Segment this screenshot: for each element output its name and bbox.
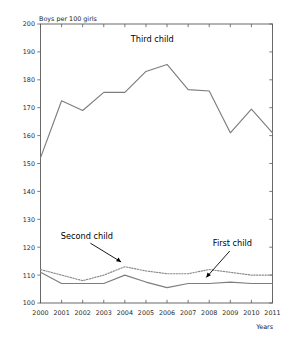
y-axis-tick-label: 160 — [23, 132, 35, 140]
x-axis-tick-label: 2011 — [264, 309, 280, 317]
y-axis-tick-label: 140 — [23, 188, 35, 196]
y-axis-title: Boys per 100 girls — [39, 15, 98, 23]
x-axis-tick-label: 2010 — [243, 309, 259, 317]
y-axis-tick-label: 200 — [23, 20, 35, 28]
x-axis-title: Years — [255, 323, 274, 331]
x-axis-tick-label: 2007 — [180, 309, 196, 317]
annotation-arrow-line — [206, 251, 229, 277]
x-axis-tick-label: 2003 — [96, 309, 112, 317]
x-axis-tick-label: 2009 — [222, 309, 238, 317]
annotation-arrow-line — [90, 243, 121, 262]
y-axis-tick-label: 180 — [23, 76, 35, 84]
x-axis-tick-label: 2006 — [159, 309, 175, 317]
series-line-third-child — [41, 64, 273, 157]
series-annotation-label: Third child — [130, 34, 174, 44]
x-axis-tick-label: 2002 — [75, 309, 91, 317]
y-axis-tick-label: 120 — [23, 244, 35, 252]
y-axis-tick-label: 130 — [23, 216, 35, 224]
x-axis-tick-label: 2000 — [32, 309, 48, 317]
series-line-first-child — [41, 272, 273, 287]
plot-frame — [41, 24, 273, 303]
y-axis-tick-label: 110 — [23, 272, 35, 280]
y-axis-tick-label: 190 — [23, 48, 35, 56]
y-axis-tick-label: 170 — [23, 104, 35, 112]
x-axis-tick-label: 2004 — [117, 309, 133, 317]
series-annotation-label: Second child — [61, 231, 113, 241]
y-axis-tick-label: 100 — [23, 299, 35, 307]
x-axis-tick-label: 2005 — [138, 309, 154, 317]
series-annotation-label: First child — [213, 238, 252, 248]
line-chart-figure: 1001101201301401501601701801902002000200… — [0, 0, 292, 338]
x-axis-tick-label: 2001 — [53, 309, 69, 317]
y-axis-tick-label: 150 — [23, 160, 35, 168]
x-axis-tick-label: 2008 — [201, 309, 217, 317]
chart-canvas: 1001101201301401501601701801902002000200… — [0, 0, 292, 338]
series-line-second-child — [41, 267, 273, 281]
